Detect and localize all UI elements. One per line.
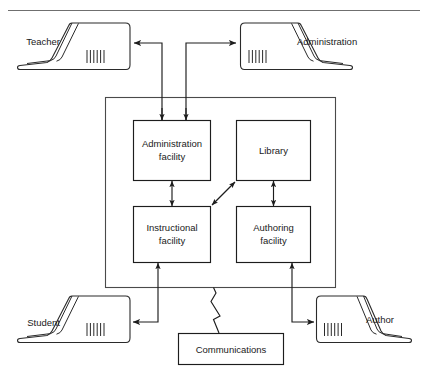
diagram-svg: Teacher Administration <box>0 0 429 381</box>
communications-label: Communications <box>196 344 267 355</box>
facility-label-line2: facility <box>159 151 186 162</box>
facility-administration-facility[interactable]: Administration facility <box>134 121 211 181</box>
facility-label-line1: Library <box>259 145 288 156</box>
actor-student[interactable]: Student <box>18 296 131 343</box>
facility-label-line2: facility <box>260 235 287 246</box>
actor-author[interactable]: Author <box>317 296 412 343</box>
facility-library[interactable]: Library <box>237 121 311 181</box>
connector-adminfacility-to-teacher <box>134 43 162 120</box>
facility-label-line1: Administration <box>142 138 202 149</box>
actor-teacher[interactable]: Teacher <box>18 23 131 70</box>
connector-library-instructional-diagonal <box>212 182 235 205</box>
external-communications[interactable]: Communications <box>179 334 284 365</box>
facility-label-line1: Authoring <box>253 222 294 233</box>
facility-authoring-facility[interactable]: Authoring facility <box>237 207 311 263</box>
lightning-bolt-icon <box>211 288 220 334</box>
actor-label-author: Author <box>366 314 394 325</box>
connector-adminfacility-to-administration <box>186 43 236 120</box>
facility-label-line2: facility <box>159 235 186 246</box>
actor-label-teacher: Teacher <box>26 36 60 47</box>
facility-label-line1: Instructional <box>146 222 197 233</box>
actor-label-student: Student <box>27 317 60 328</box>
facility-instructional-facility[interactable]: Instructional facility <box>134 207 211 263</box>
connector-instructional-to-student <box>133 310 158 322</box>
actor-administration[interactable]: Administration <box>241 23 358 70</box>
diagram-canvas: Teacher Administration <box>0 0 429 381</box>
actor-label-administration: Administration <box>297 36 357 47</box>
connector-authoring-to-author <box>292 310 314 322</box>
